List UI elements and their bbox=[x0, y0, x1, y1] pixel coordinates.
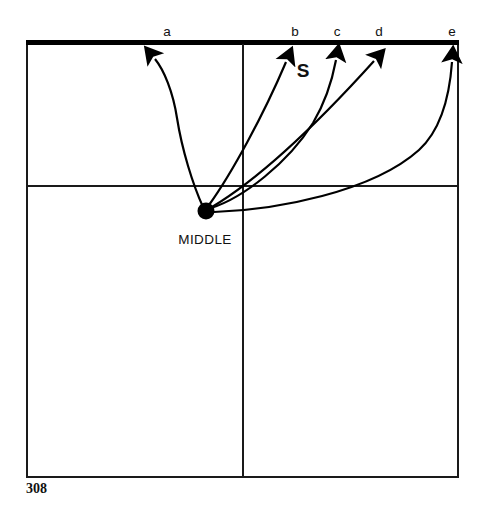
shot-path-a bbox=[155, 59, 203, 207]
page-number: 308 bbox=[26, 481, 47, 497]
middle-position-label: MIDDLE bbox=[178, 233, 231, 247]
shot-trajectories bbox=[155, 59, 452, 212]
shot-label-a: a bbox=[163, 25, 171, 39]
shot-label-d: d bbox=[375, 25, 383, 39]
shot-label-e: e bbox=[448, 25, 456, 39]
serve-label: S bbox=[297, 61, 310, 80]
court-shot-diagram bbox=[0, 0, 484, 505]
shot-label-c: c bbox=[334, 25, 341, 39]
shot-label-b: b bbox=[291, 25, 299, 39]
middle-position-dot bbox=[198, 203, 215, 220]
